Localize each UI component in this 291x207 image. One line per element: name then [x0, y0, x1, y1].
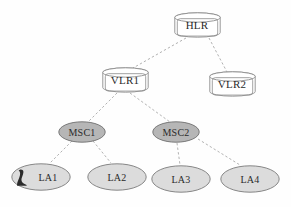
node-hlr[interactable]: HLR	[174, 12, 221, 38]
ellipse-body	[59, 122, 105, 142]
handset-silhouette	[17, 169, 27, 185]
node-la2[interactable]: LA2	[87, 163, 147, 191]
database-cylinder-icon	[209, 71, 256, 97]
node-msc2[interactable]: MSC2	[152, 121, 200, 143]
ellipse-shape-icon	[87, 163, 147, 191]
cylinder-top-ellipse	[174, 13, 219, 22]
node-la1[interactable]: LA1	[11, 163, 71, 191]
cylinder-top-ellipse	[209, 72, 254, 81]
node-la4[interactable]: LA4	[220, 165, 280, 193]
ellipse-shape-icon	[152, 121, 200, 143]
ellipse-shape-icon	[151, 165, 211, 193]
node-msc1[interactable]: MSC1	[58, 121, 106, 143]
ellipse-body	[88, 164, 146, 190]
cylinder-top-ellipse	[102, 68, 147, 77]
ellipse-body	[153, 122, 199, 142]
network-diagram: HLRVLR1VLR2MSC1MSC2LA1LA2LA3LA4	[0, 0, 291, 207]
ellipse-body	[152, 166, 210, 192]
node-layer: HLRVLR1VLR2MSC1MSC2LA1LA2LA3LA4	[0, 0, 291, 207]
ellipse-shape-icon	[220, 165, 280, 193]
node-vlr1[interactable]: VLR1	[102, 67, 149, 93]
mobile-handset-icon	[16, 169, 27, 186]
ellipse-shape-icon	[58, 121, 106, 143]
ellipse-body	[221, 166, 279, 192]
node-vlr2[interactable]: VLR2	[209, 71, 256, 97]
database-cylinder-icon	[174, 12, 221, 38]
node-la3[interactable]: LA3	[151, 165, 211, 193]
database-cylinder-icon	[102, 67, 149, 93]
